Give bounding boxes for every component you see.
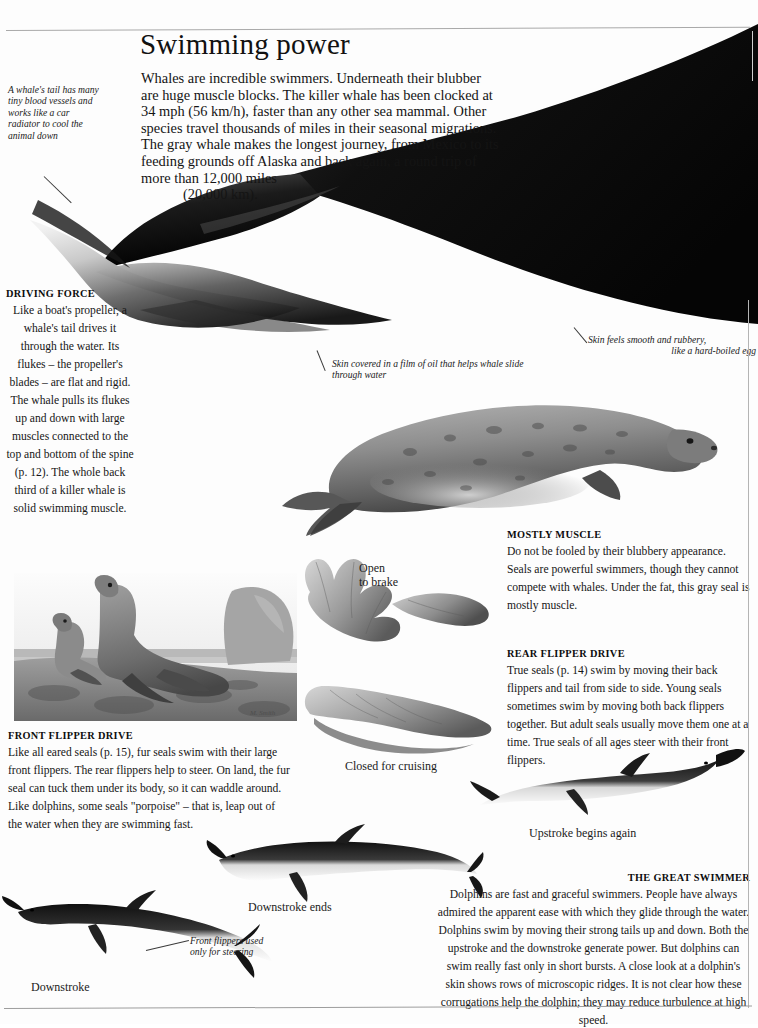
page-right-rule: [748, 300, 749, 1008]
page-title: Swimming power: [140, 28, 350, 61]
rear-flipper-drive-heading: REAR FLIPPER DRIVE: [507, 648, 750, 659]
rubbery-skin-line-2: like a hard-boiled egg: [588, 345, 756, 356]
front-flippers-note: Front flippers used only for steering: [190, 935, 310, 958]
label-downstroke: Downstroke: [31, 980, 90, 994]
rear-flipper-drive-body: True seals (p. 14) swim by moving their …: [507, 664, 748, 767]
intro-line: Whales are incredible swimmers. Undernea…: [141, 70, 481, 86]
label-open-line-2: to brake: [359, 575, 398, 589]
label-open-to-brake: Open to brake: [359, 561, 398, 589]
front-flipper-drive-section: FRONT FLIPPER DRIVE Like all eared seals…: [8, 730, 290, 832]
fur-seal-colony-illustration: M. Smith: [14, 573, 297, 721]
mostly-muscle-heading: MOSTLY MUSCLE: [507, 529, 750, 540]
front-flipper-drive-heading: FRONT FLIPPER DRIVE: [8, 730, 290, 741]
front-flipper-drive-body: Like all eared seals (p. 15), fur seals …: [8, 746, 290, 831]
great-swimmer-heading: THE GREAT SWIMMER: [437, 872, 750, 883]
label-closed-for-cruising: Closed for cruising: [345, 759, 437, 773]
rubbery-skin-note: Skin feels smooth and rubbery, like a ha…: [588, 334, 756, 357]
intro-line: are huge muscle blocks. The killer whale…: [141, 87, 493, 103]
front-flippers-line-2: only for steering: [190, 946, 310, 957]
intro-line: grounds off Alaska and back again, a: [188, 153, 401, 169]
whale-tail-note: A whale's tail has many tiny blood vesse…: [8, 84, 100, 141]
gray-seal-illustration: [270, 378, 740, 538]
intro-line: 34 mph (56 km/h), faster than any other …: [141, 103, 450, 119]
driving-force-heading: DRIVING FORCE: [6, 288, 134, 299]
driving-force-body: Like a boat's propeller, a whale's tail …: [6, 304, 133, 515]
rubbery-skin-line-1: Skin feels smooth and rubbery,: [588, 334, 706, 345]
intro-paragraph: Whales are incredible swimmers. Undernea…: [141, 70, 501, 203]
mostly-muscle-section: MOSTLY MUSCLE Do not be fooled by their …: [507, 529, 750, 613]
driving-force-section: DRIVING FORCE Like a boat's propeller, a…: [6, 288, 134, 516]
label-downstroke-ends: Downstroke ends: [248, 900, 332, 914]
intro-line-last: (20,000 km).: [141, 186, 501, 203]
svg-text:M. Smith: M. Smith: [249, 709, 276, 717]
front-flippers-line-1: Front flippers used: [190, 935, 310, 946]
label-upstroke-begins-again: Upstroke begins again: [529, 826, 636, 840]
page-right-upper-rule: [752, 31, 753, 81]
label-open-line-1: Open: [359, 561, 398, 575]
mostly-muscle-body: Do not be fooled by their blubbery appea…: [507, 545, 749, 612]
rear-flipper-drive-section: REAR FLIPPER DRIVE True seals (p. 14) sw…: [507, 648, 750, 768]
oil-film-note: Skin covered in a film of oil that helps…: [332, 358, 538, 381]
